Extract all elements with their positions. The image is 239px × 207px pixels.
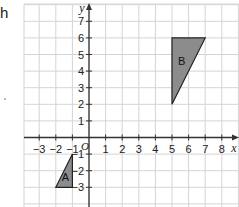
x-tick-label: 4 [152,143,158,155]
x-tick-label: 7 [202,143,208,155]
y-tick-label: 7 [78,15,84,27]
x-tick-label: −2 [50,143,63,155]
x-tick-label: 5 [169,143,175,155]
y-tick-label: 5 [78,49,84,61]
origin-label: O [81,140,89,152]
x-tick-label: 1 [103,143,109,155]
coordinate-grid: AB −3−2−1123456787654321−1−2−3Oxy [0,0,239,207]
shape-label-a: A [62,171,70,183]
axis-labels: −3−2−1123456787654321−1−2−3Oxy [33,1,237,193]
x-tick-label: 6 [186,143,192,155]
y-tick-label: 1 [78,115,84,127]
y-tick-label: −2 [71,165,84,177]
x-tick-label: 2 [119,143,125,155]
x-tick-label: 8 [219,143,225,155]
x-tick-label: −3 [33,143,46,155]
y-tick-label: −3 [71,181,84,193]
y-tick-label: 3 [78,82,84,94]
grid-lines [24,4,239,207]
y-tick-label: 4 [78,65,84,77]
shape-label-b: B [178,55,185,67]
x-axis-label: x [230,141,237,155]
y-tick-label: 6 [78,32,84,44]
y-tick-label: 2 [78,98,84,110]
y-axis-label: y [78,1,85,15]
x-tick-label: 3 [136,143,142,155]
